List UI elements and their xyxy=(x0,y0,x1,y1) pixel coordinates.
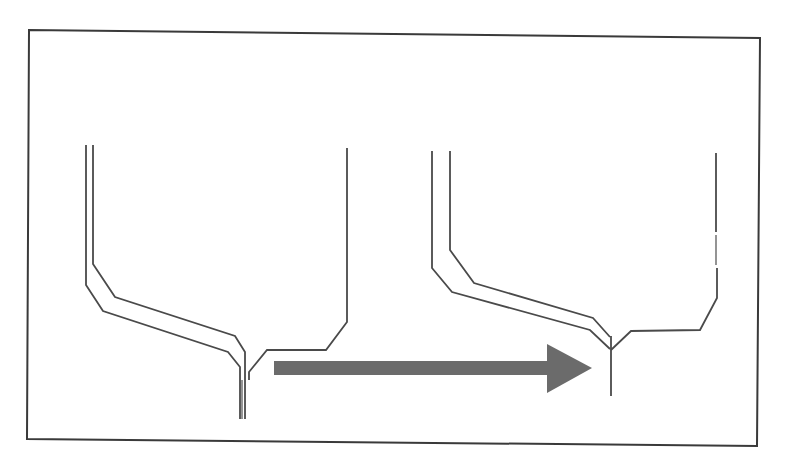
diagram-frame xyxy=(27,30,760,446)
arrow-shaft xyxy=(274,361,548,375)
arrow-head-icon xyxy=(547,344,592,393)
right-funnel-outer-wall xyxy=(432,151,610,349)
transition-arrow xyxy=(274,344,592,393)
right-funnel-inner-wall xyxy=(450,151,610,337)
left-funnel-before xyxy=(86,145,347,419)
left-funnel-inner-wall xyxy=(93,145,245,419)
right-funnel-right-wall-bottom xyxy=(611,268,717,350)
left-funnel-right-wall xyxy=(249,148,347,380)
left-funnel-outer-wall xyxy=(86,145,240,419)
funnel-transformation-diagram xyxy=(0,0,785,464)
